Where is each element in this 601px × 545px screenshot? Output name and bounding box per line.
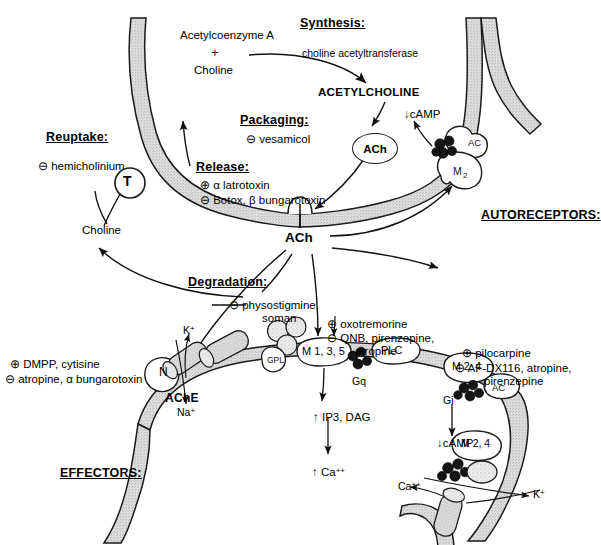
cleft-ach-label: ACh	[285, 230, 313, 245]
gq-protein-label: Gq	[352, 376, 366, 388]
degradation-heading: Degradation:	[188, 275, 268, 289]
choline-recycle-arc	[99, 248, 243, 297]
presynaptic-camp-label: ↓cAMP	[404, 108, 440, 121]
plc-label: PLC	[381, 344, 402, 356]
choline-recycled-label: Choline	[82, 224, 121, 237]
nicotinic-agonists-label: ⊕ DMPP, cytisine	[10, 358, 100, 371]
plus-sign: +	[211, 46, 219, 61]
choline-top-label: Choline	[194, 64, 233, 77]
svg-text:GPL: GPL	[267, 355, 284, 365]
m24-upper-label: M 2, 4	[452, 361, 481, 373]
muscarinic-i-antagonists-2: pirenzepine	[484, 375, 543, 388]
packaging-heading: Packaging:	[240, 113, 309, 127]
autoreceptors-heading: AUTORECEPTORS:	[481, 208, 601, 222]
potassium-efflux-label: K+	[183, 325, 195, 337]
reuptake-item-0: ⊖ hemicholinium	[38, 160, 125, 173]
degradation-item-1: soman	[262, 312, 297, 325]
calcium-increase-label: ↑ Ca++	[312, 466, 345, 479]
nicotinic-antagonists-label: ⊖ atropine, α bungarotoxin	[5, 373, 142, 386]
synthesis-heading: Synthesis:	[300, 16, 365, 30]
ach-vesicle: ACh	[352, 133, 398, 164]
choline-label-link	[95, 191, 107, 224]
gi-protein-label: Gi	[443, 395, 454, 407]
muscarinic-q-agonists-label: ⊕ oxotremorine	[327, 318, 407, 331]
choline-acetyltransferase-label: choline acetyltransferase	[302, 48, 418, 60]
ach-to-effector-arrow	[332, 248, 438, 268]
ip3-dag-label: ↑ IP3, DAG	[313, 411, 371, 424]
acetylcholine-label: ACETYLCHOLINE	[318, 86, 420, 99]
release-heading: Release:	[196, 160, 249, 174]
release-item-0: ⊕ α latrotoxin	[200, 179, 270, 192]
nicotinic-receptor-label: N	[159, 366, 168, 379]
svg-text:AC: AC	[468, 137, 481, 148]
m24-lower-label: M 2, 4	[461, 438, 490, 450]
reuptake-heading: Reuptake:	[46, 130, 108, 144]
svg-text:M: M	[453, 165, 462, 177]
choline-into-terminal-arrow	[183, 121, 190, 166]
ache-label: AChE	[165, 392, 199, 405]
ach-to-muscarinic-arrow	[312, 254, 318, 336]
svg-text:2: 2	[463, 171, 468, 180]
effectors-heading: EFFECTORS:	[60, 466, 142, 480]
release-item-1: ⊖ Botox, β bungarotoxin	[200, 194, 325, 207]
effector-calcium-label: Ca++	[398, 481, 421, 493]
degradation-item-0: ⊖ physostigmine,	[229, 299, 319, 312]
packaging-arrow	[372, 102, 385, 126]
acetyl-coa-label: Acetylcoenzyme A	[180, 29, 274, 42]
m135-receptor-label: M 1, 3, 5	[302, 345, 345, 357]
transporter-label: T	[123, 174, 132, 190]
transporter-to-choline-line	[104, 194, 120, 226]
packaging-item-0: ⊖ vesamicol	[246, 133, 310, 146]
effector-potassium-label: K+	[533, 489, 545, 501]
sodium-influx-label: Na+	[177, 407, 195, 419]
muscarinic-q-antagonists-1: ⊖ QNB, pirenzepine,	[327, 332, 434, 345]
muscarinic-i-agonists-label: ⊕ pilocarpine	[462, 347, 531, 360]
